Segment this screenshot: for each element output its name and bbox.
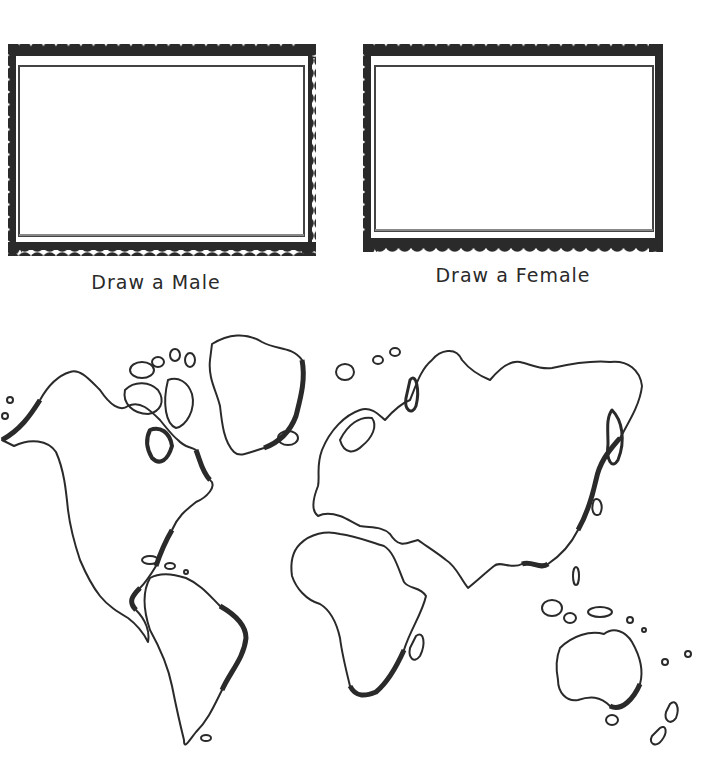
- draw-male-label: Draw a Male: [6, 271, 306, 293]
- africa-shape: [291, 532, 426, 695]
- world-map-outline-icon: [0, 320, 711, 773]
- greenland-shape: [210, 335, 304, 454]
- scalloped-border-icon: [361, 42, 665, 254]
- australia-shape: [557, 630, 642, 707]
- south-america-shape: [145, 574, 246, 744]
- draw-female-label: Draw a Female: [363, 264, 663, 286]
- eurasia-shape: [313, 351, 642, 588]
- draw-female-frame[interactable]: [361, 42, 665, 254]
- draw-male-frame[interactable]: [6, 42, 318, 258]
- scalloped-border-icon: [6, 42, 318, 258]
- world-map: [0, 320, 711, 773]
